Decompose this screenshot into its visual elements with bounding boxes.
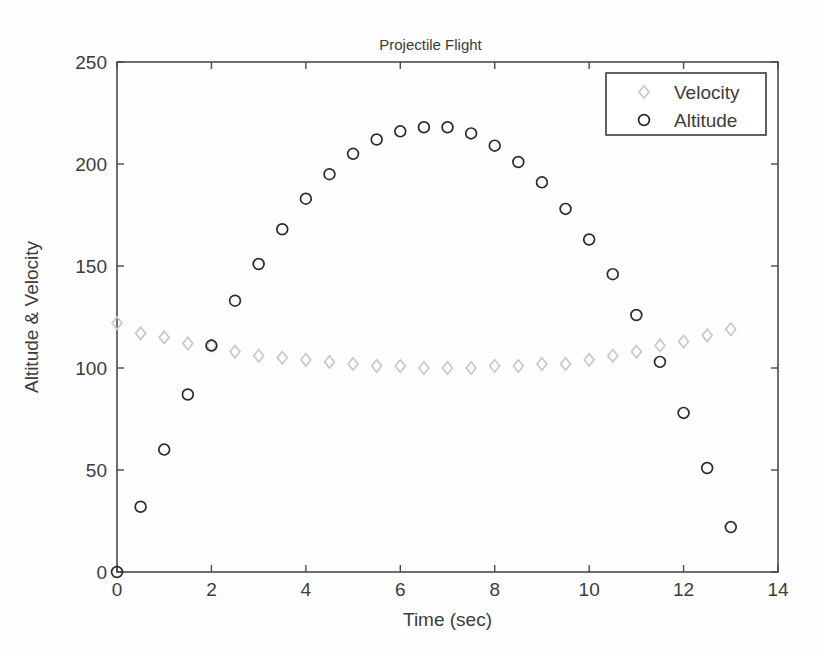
point-altitude-21 (607, 269, 618, 280)
y-tick-label-50: 50 (86, 460, 107, 481)
point-velocity-24 (679, 335, 689, 347)
point-velocity-1 (136, 327, 146, 339)
point-altitude-3 (182, 389, 193, 400)
projectile-flight-chart: 02468101214050100150200250Time (sec)Alti… (0, 0, 822, 651)
point-altitude-14 (442, 122, 453, 133)
point-velocity-9 (325, 356, 335, 368)
point-velocity-26 (726, 323, 736, 335)
point-velocity-5 (230, 345, 240, 357)
point-altitude-16 (489, 140, 500, 151)
point-altitude-23 (655, 356, 666, 367)
plot-box (117, 62, 778, 572)
chart-title: Projectile Flight (379, 36, 482, 53)
point-altitude-15 (466, 128, 477, 139)
y-tick-label-100: 100 (75, 358, 107, 379)
x-tick-label-0: 0 (112, 579, 123, 600)
point-velocity-25 (702, 329, 712, 341)
point-velocity-10 (348, 358, 358, 370)
point-altitude-19 (560, 203, 571, 214)
point-altitude-11 (371, 134, 382, 145)
point-altitude-9 (324, 169, 335, 180)
point-velocity-11 (372, 360, 382, 372)
x-axis-title: Time (sec) (403, 609, 492, 630)
y-tick-label-0: 0 (96, 562, 107, 583)
point-velocity-15 (466, 362, 476, 374)
point-altitude-5 (230, 295, 241, 306)
point-altitude-7 (277, 224, 288, 235)
x-tick-label-8: 8 (489, 579, 500, 600)
point-altitude-25 (702, 463, 713, 474)
legend-label-altitude: Altitude (674, 110, 737, 131)
x-tick-label-10: 10 (579, 579, 600, 600)
point-altitude-12 (395, 126, 406, 137)
point-velocity-23 (655, 339, 665, 351)
point-altitude-24 (678, 407, 689, 418)
legend-label-velocity: Velocity (674, 82, 740, 103)
point-velocity-22 (631, 345, 641, 357)
point-altitude-10 (348, 148, 359, 159)
x-tick-label-2: 2 (206, 579, 217, 600)
point-velocity-16 (490, 360, 500, 372)
point-altitude-17 (513, 157, 524, 168)
figure-canvas: 02468101214050100150200250Time (sec)Alti… (0, 0, 822, 651)
point-altitude-8 (300, 193, 311, 204)
point-altitude-26 (725, 522, 736, 533)
point-velocity-3 (183, 337, 193, 349)
point-altitude-4 (206, 340, 217, 351)
x-tick-label-6: 6 (395, 579, 406, 600)
point-altitude-18 (537, 177, 548, 188)
point-velocity-2 (159, 331, 169, 343)
y-tick-label-150: 150 (75, 256, 107, 277)
point-velocity-14 (443, 362, 453, 374)
point-velocity-19 (561, 358, 571, 370)
point-velocity-17 (513, 360, 523, 372)
point-velocity-13 (419, 362, 429, 374)
point-velocity-20 (584, 354, 594, 366)
point-altitude-13 (418, 122, 429, 133)
y-tick-label-200: 200 (75, 154, 107, 175)
point-velocity-6 (254, 350, 264, 362)
x-tick-label-14: 14 (767, 579, 789, 600)
point-velocity-12 (395, 360, 405, 372)
y-axis-title: Altitude & Velocity (21, 240, 42, 393)
point-altitude-22 (631, 310, 642, 321)
x-tick-label-4: 4 (301, 579, 312, 600)
y-tick-label-250: 250 (75, 52, 107, 73)
point-velocity-18 (537, 358, 547, 370)
x-tick-label-12: 12 (673, 579, 694, 600)
point-altitude-1 (135, 501, 146, 512)
point-altitude-20 (584, 234, 595, 245)
point-velocity-7 (277, 352, 287, 364)
point-altitude-6 (253, 259, 264, 270)
point-velocity-8 (301, 354, 311, 366)
point-altitude-2 (159, 444, 170, 455)
point-velocity-21 (608, 350, 618, 362)
